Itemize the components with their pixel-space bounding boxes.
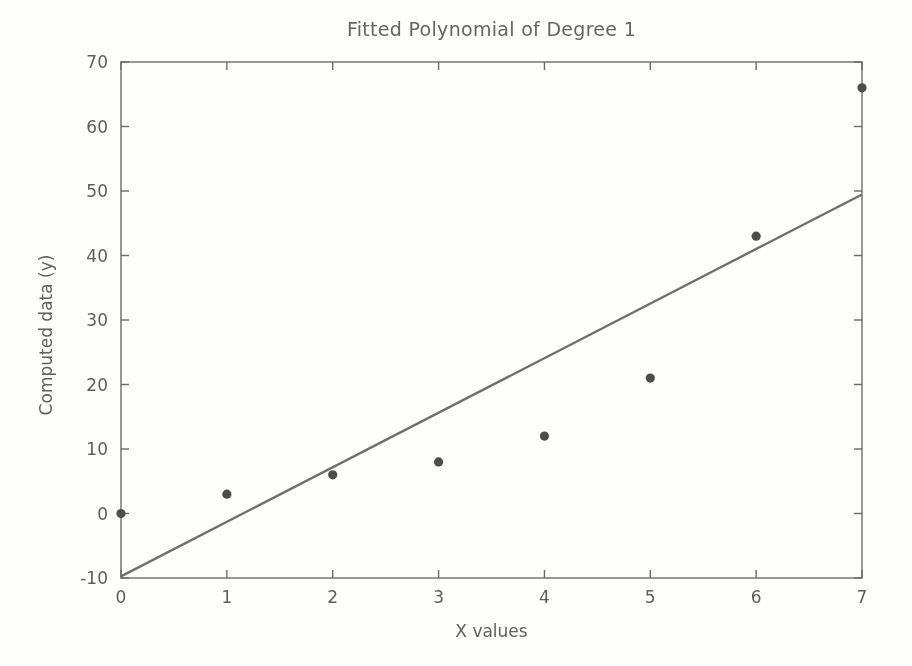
x-tick-label: 7 bbox=[857, 587, 868, 607]
x-tick-label: 6 bbox=[751, 587, 762, 607]
x-tick-label: 4 bbox=[539, 587, 550, 607]
y-tick-label: 50 bbox=[86, 181, 108, 201]
y-tick-label: 60 bbox=[86, 117, 108, 137]
y-tick-label: 0 bbox=[97, 504, 108, 524]
fit-line bbox=[121, 194, 862, 576]
y-tick-label: -10 bbox=[80, 568, 108, 588]
plot-frame bbox=[121, 62, 862, 578]
data-point bbox=[434, 457, 443, 466]
data-point bbox=[222, 490, 231, 499]
y-axis-label: Computed data (y) bbox=[36, 255, 56, 416]
y-tick-label: 70 bbox=[86, 52, 108, 72]
plot-svg: 01234567-10010203040506070 bbox=[0, 0, 912, 666]
x-tick-label: 0 bbox=[116, 587, 127, 607]
y-tick-label: 40 bbox=[86, 246, 108, 266]
y-tick-label: 10 bbox=[86, 439, 108, 459]
data-point bbox=[116, 509, 125, 518]
x-tick-label: 3 bbox=[433, 587, 444, 607]
x-tick-label: 2 bbox=[327, 587, 338, 607]
x-axis-label: X values bbox=[121, 621, 862, 641]
data-point bbox=[646, 373, 655, 382]
data-point bbox=[328, 470, 337, 479]
y-tick-label: 20 bbox=[86, 375, 108, 395]
x-tick-label: 5 bbox=[645, 587, 656, 607]
data-point bbox=[857, 83, 866, 92]
x-tick-label: 1 bbox=[221, 587, 232, 607]
y-tick-label: 30 bbox=[86, 310, 108, 330]
data-point bbox=[540, 432, 549, 441]
figure-canvas: Fitted Polynomial of Degree 1 01234567-1… bbox=[0, 0, 912, 666]
data-point bbox=[752, 232, 761, 241]
